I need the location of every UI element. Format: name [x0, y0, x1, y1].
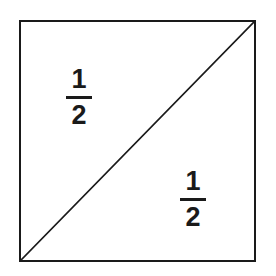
fraction-bar-icon — [66, 96, 92, 99]
fraction-numerator: 1 — [180, 168, 206, 195]
figure-root: 1 2 1 2 — [0, 0, 276, 276]
fraction-denominator: 2 — [180, 204, 206, 231]
fraction-label-upper-left: 1 2 — [66, 66, 92, 129]
fraction-numerator: 1 — [66, 66, 92, 93]
fraction-denominator: 2 — [66, 102, 92, 129]
fraction-bar-icon — [180, 198, 206, 201]
fraction-label-lower-right: 1 2 — [180, 168, 206, 231]
square-outline — [19, 20, 256, 262]
